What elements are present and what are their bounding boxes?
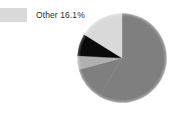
legend-swatch-other	[0, 8, 27, 22]
pie-edge-softening	[77, 13, 167, 103]
pie-chart-figure: Other 16.1%	[0, 0, 178, 117]
chart-legend: Other 16.1%	[0, 7, 85, 22]
legend-item-other[interactable]: Other 16.1%	[0, 8, 85, 22]
pie-plot-area	[77, 12, 167, 104]
pie-svg	[77, 12, 167, 104]
